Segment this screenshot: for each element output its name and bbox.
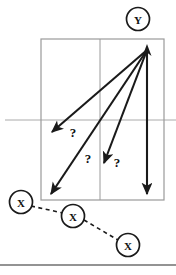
node-x-label: X bbox=[17, 197, 25, 209]
arrow-group bbox=[51, 50, 147, 194]
diagram-canvas: ? ? ? Y X X X bbox=[0, 0, 176, 275]
question-mark-label: ? bbox=[70, 125, 77, 140]
dashed-link bbox=[31, 206, 63, 213]
node-x-label: X bbox=[124, 240, 132, 252]
arrow-to-lower-left bbox=[51, 50, 147, 194]
node-y-label: Y bbox=[134, 14, 142, 26]
question-mark-label: ? bbox=[85, 151, 92, 166]
node-y[interactable]: Y bbox=[127, 8, 150, 31]
node-x-1[interactable]: X bbox=[62, 205, 85, 228]
diagram-svg: ? ? ? Y X X X bbox=[0, 0, 176, 275]
node-x-0[interactable]: X bbox=[10, 191, 33, 214]
node-x-2[interactable]: X bbox=[117, 234, 140, 257]
dashed-link bbox=[84, 220, 118, 240]
node-x-label: X bbox=[69, 211, 77, 223]
question-mark-label: ? bbox=[114, 155, 121, 170]
